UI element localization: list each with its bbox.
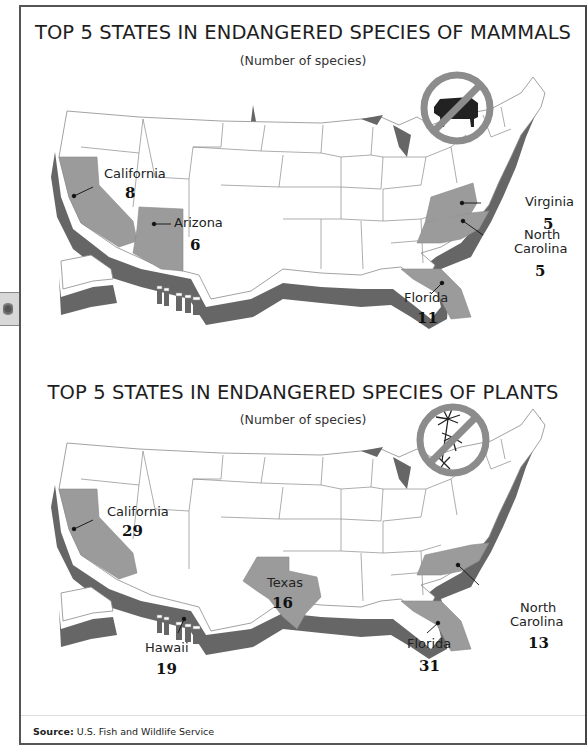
- label-north-carolina-l1: North: [520, 600, 556, 615]
- value-arizona: 6: [190, 236, 200, 254]
- label-north-carolina-l2: Carolina: [514, 241, 568, 256]
- value-florida: 11: [417, 309, 438, 327]
- value-california: 8: [125, 184, 135, 202]
- value-north-carolina: 13: [528, 634, 549, 652]
- no-cow-icon: [418, 69, 496, 147]
- source-note: Source: U.S. Fish and Wildlife Service: [33, 726, 214, 737]
- source-text: U.S. Fish and Wildlife Service: [77, 726, 214, 737]
- label-north-carolina-l1: North: [524, 227, 560, 242]
- label-arizona: Arizona: [174, 215, 223, 230]
- source-label: Source:: [33, 726, 74, 737]
- label-north-carolina-l2: Carolina: [510, 614, 564, 629]
- label-hawaii: Hawaii: [145, 640, 189, 655]
- value-florida: 31: [419, 657, 440, 675]
- mammals-panel: TOP 5 STATES IN ENDANGERED SPECIES OF MA…: [21, 7, 585, 367]
- label-virginia: Virginia: [525, 194, 574, 209]
- infographic-frame: TOP 5 STATES IN ENDANGERED SPECIES OF MA…: [19, 5, 587, 745]
- footer-divider: [21, 715, 585, 716]
- side-thumbnail-tab: [0, 292, 19, 326]
- no-plant-icon: [414, 401, 492, 479]
- us-map-plants: [21, 367, 587, 707]
- label-texas: Texas: [267, 575, 303, 590]
- label-florida: Florida: [407, 636, 451, 651]
- value-north-carolina: 5: [535, 262, 545, 280]
- value-texas: 16: [272, 594, 293, 612]
- value-hawaii: 19: [156, 660, 177, 678]
- plants-panel: TOP 5 STATES IN ENDANGERED SPECIES OF PL…: [21, 367, 585, 707]
- label-california: California: [104, 166, 166, 181]
- label-florida: Florida: [404, 290, 448, 305]
- value-california: 29: [122, 522, 143, 540]
- label-california: California: [107, 504, 169, 519]
